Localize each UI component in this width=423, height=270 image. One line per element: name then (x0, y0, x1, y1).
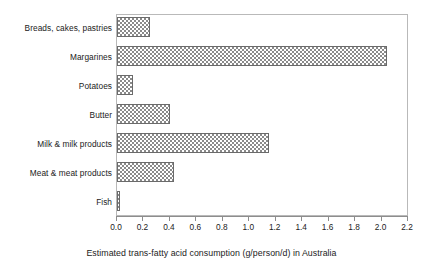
x-axis-title: Estimated trans-fatty acid consumption (… (0, 248, 423, 259)
bar-row: Potatoes (0, 72, 423, 101)
bar (117, 46, 387, 66)
x-tick-mark (381, 216, 382, 221)
bar-row: Butter (0, 101, 423, 130)
category-label: Meat & meat products (0, 168, 112, 178)
x-tick-mark (195, 216, 196, 221)
x-tick-mark (116, 216, 117, 221)
bar-row: Milk & milk products (0, 129, 423, 158)
x-tick-label: 2.2 (387, 222, 423, 232)
x-tick-mark (301, 216, 302, 221)
bar (117, 162, 174, 182)
bar-track (117, 129, 408, 158)
x-tick-mark (222, 216, 223, 221)
category-label: Margarines (0, 52, 112, 62)
x-tick-mark (248, 216, 249, 221)
x-tick-mark (275, 216, 276, 221)
bar-row: Margarines (0, 43, 423, 72)
x-tick-mark (354, 216, 355, 221)
x-tick-mark (142, 216, 143, 221)
bar-track (117, 14, 408, 43)
bar-track (117, 101, 408, 130)
x-axis (116, 216, 408, 217)
bar (117, 191, 120, 211)
bar-track (117, 158, 408, 187)
category-label: Breads, cakes, pastries (0, 23, 112, 33)
bar-row: Meat & meat products (0, 158, 423, 187)
bar-chart: Breads, cakes, pastriesMargarinesPotatoe… (0, 0, 423, 270)
bar (117, 75, 133, 95)
category-label: Milk & milk products (0, 139, 112, 149)
bar (117, 17, 150, 37)
bar-row: Breads, cakes, pastries (0, 14, 423, 43)
bar-row: Fish (0, 187, 423, 216)
x-tick-mark (328, 216, 329, 221)
x-tick-mark (407, 216, 408, 221)
bar (117, 104, 170, 124)
category-label: Butter (0, 110, 112, 120)
category-label: Fish (0, 197, 112, 207)
bar-rows: Breads, cakes, pastriesMargarinesPotatoe… (0, 14, 423, 216)
bar-track (117, 72, 408, 101)
bar (117, 133, 269, 153)
category-label: Potatoes (0, 81, 112, 91)
x-tick-mark (169, 216, 170, 221)
bar-track (117, 187, 408, 216)
bar-track (117, 43, 408, 72)
